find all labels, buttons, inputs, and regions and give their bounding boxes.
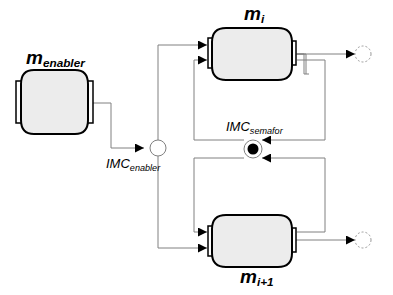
output-place-mi [355, 46, 371, 62]
edge-imcenabler-to-mi [158, 45, 207, 140]
label-m-i1-sub: i+1 [257, 275, 274, 288]
label-imc-semafor-main: IMC [226, 119, 250, 134]
edge-menabler-to-imcenabler [93, 103, 144, 148]
imc-enabler-place[interactable] [150, 140, 166, 156]
edge-mi-to-output [297, 54, 306, 74]
machine-m-enabler[interactable] [16, 70, 93, 134]
label-m-i-main: m [244, 3, 261, 24]
diagram-canvas [0, 0, 393, 295]
label-imc-semafor: IMCsemafor [226, 119, 283, 136]
token-icon [248, 144, 259, 155]
label-imc-enabler-sub: enabler [130, 163, 160, 173]
label-m-i1-main: m [240, 266, 257, 287]
label-imc-enabler-main: IMC [106, 156, 130, 171]
machine-m-i1[interactable] [208, 215, 296, 267]
output-edges [297, 54, 309, 74]
label-m-enabler: menabler [26, 47, 85, 69]
label-imc-semafor-sub: semafor [250, 126, 283, 136]
output-place-mi1 [355, 232, 371, 248]
label-imc-enabler: IMCenabler [106, 156, 160, 173]
imc-semafor-place[interactable] [244, 140, 262, 158]
machine-m-i[interactable] [208, 28, 296, 80]
label-m-enabler-sub: enabler [43, 56, 85, 69]
label-m-i: mi [244, 3, 264, 25]
edge-imcenabler-to-mi1 [158, 156, 207, 248]
label-m-i1: mi+1 [240, 266, 274, 288]
label-m-i-sub: i [261, 12, 264, 25]
edge-mi-output [297, 54, 309, 74]
label-m-enabler-main: m [26, 47, 43, 68]
